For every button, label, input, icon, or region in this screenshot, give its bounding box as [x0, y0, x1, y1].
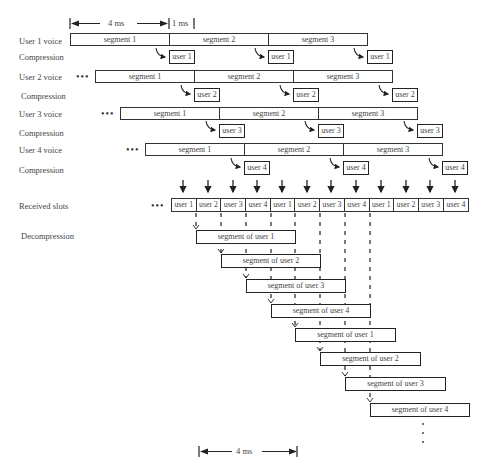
label-user3-compression: Compression	[19, 128, 64, 138]
user2-compressed-3: user 2	[392, 88, 418, 102]
user3-compressed-3: user 3	[417, 124, 443, 138]
top-1ms-label: 1 ms	[172, 18, 188, 28]
decompressed-segment: segment of user 3	[246, 279, 346, 293]
label-user4-voice: User 4 voice	[19, 145, 62, 155]
user4-segment-1: segment 1	[145, 143, 245, 156]
user4-segment-3: segment 3	[343, 143, 443, 156]
user1-compressed-1: user 1	[169, 50, 195, 64]
ellipsis-user2: •••	[76, 72, 90, 82]
decompressed-segment: segment of user 1	[196, 230, 296, 244]
user3-compressed-2: user 3	[318, 124, 344, 138]
received-slots-row: user 1 user 2 user 3 user 4 user 1 user …	[171, 198, 469, 212]
top-4ms-label: 4 ms	[108, 18, 124, 28]
user4-compressed-2: user 4	[343, 161, 369, 175]
user3-segment-2: segment 2	[219, 107, 319, 120]
user2-segment-1: segment 1	[95, 70, 195, 83]
user2-segment-3: segment 3	[293, 70, 393, 83]
user2-compressed-2: user 2	[293, 88, 319, 102]
ellipsis-user3: •••	[101, 109, 115, 119]
user1-compressed-2: user 1	[268, 50, 294, 64]
user2-compressed-1: user 2	[194, 88, 220, 102]
label-user4-compression: Compression	[19, 165, 64, 175]
slot: user 3	[221, 199, 246, 211]
user2-segment-2: segment 2	[194, 70, 294, 83]
label-received-slots: Received slots	[19, 201, 68, 211]
decompressed-segment: segment of user 4	[370, 403, 470, 417]
slot-down-arrows	[183, 180, 455, 192]
slot: user 4	[444, 199, 469, 211]
slot: user 3	[419, 199, 444, 211]
user1-segment-3: segment 3	[268, 33, 368, 46]
ellipsis-user4: •••	[126, 145, 140, 155]
slot: user 3	[320, 199, 345, 211]
user3-compressed-1: user 3	[219, 124, 245, 138]
decompressed-segment: segment of user 2	[320, 352, 421, 366]
decompressed-segment: segment of user 2	[221, 254, 321, 268]
decompressed-segment: segment of user 4	[271, 304, 371, 318]
slot: user 1	[172, 199, 197, 211]
slot: user 2	[295, 199, 320, 211]
slot: user 4	[345, 199, 370, 211]
label-user2-voice: User 2 voice	[19, 72, 62, 82]
label-decompression: Decompression	[21, 231, 74, 241]
user4-compressed-1: user 4	[244, 161, 270, 175]
slot: user 2	[394, 199, 419, 211]
bottom-4ms-label: 4 ms	[236, 446, 252, 456]
label-user1-voice: User 1 voice	[19, 36, 62, 46]
user1-segment-2: segment 2	[169, 33, 269, 46]
decompressed-segment: segment of user 3	[345, 377, 446, 391]
slot: user 1	[370, 199, 395, 211]
ellipsis-received-slots: •••	[151, 201, 165, 211]
vertical-ellipsis-icon	[422, 423, 424, 443]
user3-segment-1: segment 1	[120, 107, 220, 120]
slot: user 4	[246, 199, 271, 211]
user4-segment-2: segment 2	[244, 143, 344, 156]
label-user3-voice: User 3 voice	[19, 109, 62, 119]
slot: user 1	[271, 199, 296, 211]
slot: user 2	[197, 199, 222, 211]
label-user1-compression: Compression	[19, 52, 64, 62]
user1-segment-1: segment 1	[70, 33, 170, 46]
user4-compressed-3: user 4	[442, 161, 468, 175]
label-user2-compression: Compression	[21, 91, 66, 101]
user3-segment-3: segment 3	[318, 107, 418, 120]
decompressed-segment: segment of user 1	[295, 328, 396, 342]
user1-compressed-3: user 1	[367, 50, 393, 64]
